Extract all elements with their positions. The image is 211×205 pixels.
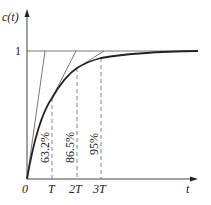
y-axis-label: c(t): [2, 10, 19, 24]
x-tick-2T: 2T: [69, 182, 83, 196]
annotation-86: 86.5%: [63, 132, 77, 163]
x-axis-arrow-icon: [190, 177, 198, 182]
x-tick-3T: 3T: [92, 182, 107, 196]
x-axis-label: t: [186, 182, 190, 196]
origin-label: 0: [22, 182, 28, 196]
annotation-63: 63.2%: [38, 132, 52, 163]
annotation-95: 95%: [87, 133, 101, 155]
step-response-diagram: c(t) 1 0 T 2T 3T t 63.2% 86.5% 95%: [0, 0, 211, 205]
y-tick-1: 1: [15, 44, 21, 58]
x-tick-T: T: [48, 182, 56, 196]
response-curve: [27, 51, 198, 179]
y-axis-arrow-icon: [25, 9, 30, 17]
